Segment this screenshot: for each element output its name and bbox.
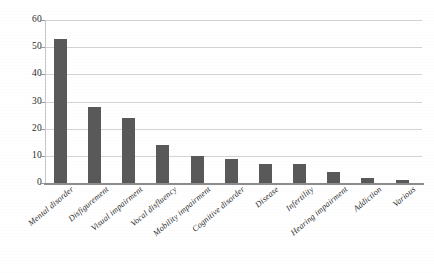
bar [54, 39, 67, 183]
bar-chart: 0102030405060 Mental disorderDisfigureme… [0, 0, 434, 273]
x-axis-label: Infertility [283, 184, 315, 213]
plot-area [46, 20, 422, 183]
y-tick-label-50: 50 [2, 42, 42, 52]
gridline-60 [46, 20, 422, 21]
x-axis-label: Disease [253, 184, 281, 209]
x-axis-label: Addiction [351, 184, 383, 213]
bar [191, 156, 204, 183]
y-tick-label-20: 20 [2, 124, 42, 134]
gridline-40 [46, 74, 422, 75]
y-tick-label-60: 60 [2, 15, 42, 25]
bar [259, 164, 272, 183]
x-axis-label: Mobility impairment [151, 184, 213, 238]
bar [293, 164, 306, 183]
gridline-50 [46, 47, 422, 48]
gridline-30 [46, 102, 422, 103]
bar [122, 118, 135, 183]
bar [225, 159, 238, 183]
bar [327, 172, 340, 183]
y-tick-label-30: 30 [2, 97, 42, 107]
gridline-10 [46, 156, 422, 157]
y-axis-tick-labels: 0102030405060 [0, 0, 42, 273]
bar [88, 107, 101, 183]
y-tick-label-0: 0 [2, 178, 42, 188]
x-axis-label: Hearing impairment [288, 184, 349, 238]
x-axis-label: Various [391, 184, 418, 209]
x-axis-category-labels: Mental disorderDisfigurementVisual impai… [46, 184, 434, 273]
y-tick-label-10: 10 [2, 151, 42, 161]
y-tick-label-40: 40 [2, 69, 42, 79]
bar [156, 145, 169, 183]
gridline-20 [46, 129, 422, 130]
